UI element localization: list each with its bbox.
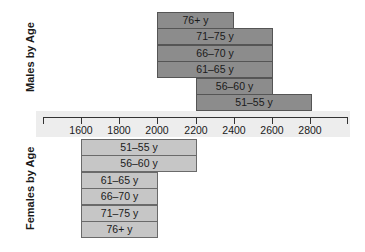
axis-tick-label: 2200 — [176, 124, 216, 136]
females-axis-label: Females by Age — [24, 147, 36, 230]
male-bar: 51–55 y — [196, 94, 312, 111]
axis-tick-label: 2800 — [290, 124, 330, 136]
female-bar: 76+ y — [81, 221, 158, 238]
male-bar: 66–70 y — [157, 45, 273, 62]
axis-tick — [81, 117, 82, 124]
axis-tick — [234, 117, 235, 124]
axis-tick — [119, 117, 120, 124]
female-bar: 61–65 y — [81, 172, 158, 189]
axis-end-tick-right — [347, 117, 348, 124]
axis-tick — [272, 117, 273, 124]
axis-tick-label: 1800 — [99, 124, 139, 136]
male-bar: 61–65 y — [157, 61, 273, 78]
female-bar: 51–55 y — [81, 139, 197, 156]
female-bar: 71–75 y — [81, 205, 158, 222]
male-bar: 71–75 y — [157, 28, 273, 45]
axis-tick — [157, 117, 158, 124]
axis-tick-label: 2400 — [214, 124, 254, 136]
male-bar: 76+ y — [157, 12, 234, 29]
axis-tick-label: 2600 — [252, 124, 292, 136]
axis-tick-label: 2000 — [137, 124, 177, 136]
axis-tick — [196, 117, 197, 124]
female-bar: 66–70 y — [81, 188, 158, 205]
male-bar: 56–60 y — [196, 78, 273, 95]
axis-tick — [310, 117, 311, 124]
males-axis-label: Males by Age — [24, 22, 36, 92]
female-bar: 56–60 y — [81, 155, 197, 172]
axis-end-tick-left — [43, 117, 44, 124]
axis-tick-label: 1600 — [61, 124, 101, 136]
